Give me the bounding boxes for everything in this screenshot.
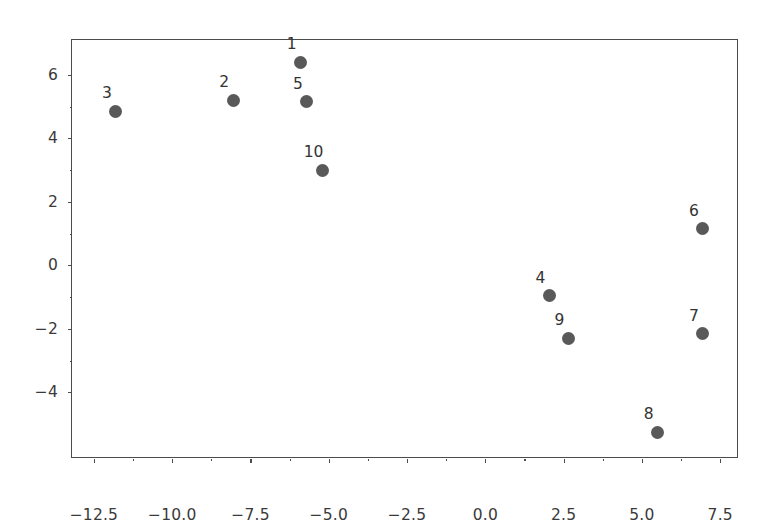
data-point-label: 8 — [644, 405, 654, 423]
y-tick-mark — [68, 329, 72, 330]
data-point-label: 4 — [536, 269, 546, 287]
y-tick-label: 0 — [48, 256, 58, 274]
x-tick-label: −7.5 — [231, 506, 269, 524]
x-tick-label: 5.0 — [629, 506, 654, 524]
x-tick-mark — [642, 459, 643, 463]
x-minor-tick-mark — [133, 459, 134, 461]
data-point[interactable] — [543, 289, 556, 302]
x-minor-tick-mark — [446, 459, 447, 461]
x-tick-mark — [172, 459, 173, 463]
data-point[interactable] — [696, 327, 709, 340]
data-point-label: 6 — [689, 202, 699, 220]
data-point[interactable] — [316, 164, 329, 177]
x-minor-tick-mark — [211, 459, 212, 461]
y-tick-mark — [68, 75, 72, 76]
y-tick-label: 6 — [48, 66, 58, 84]
data-point[interactable] — [294, 56, 307, 69]
x-minor-tick-mark — [368, 459, 369, 461]
y-tick-mark — [68, 202, 72, 203]
plot-axes-area: −12.5−10.0−7.5−5.0−2.50.02.55.07.5 6420−… — [71, 39, 738, 458]
x-tick-label: 7.5 — [708, 506, 733, 524]
y-minor-tick-mark — [70, 297, 72, 298]
data-point[interactable] — [696, 222, 709, 235]
data-point[interactable] — [651, 426, 664, 439]
data-point[interactable] — [562, 332, 575, 345]
y-tick-label: −2 — [35, 320, 58, 338]
y-tick-label: 4 — [48, 129, 58, 147]
x-minor-tick-mark — [524, 459, 525, 461]
x-tick-mark — [250, 459, 251, 463]
x-tick-mark — [485, 459, 486, 463]
data-point[interactable] — [300, 95, 313, 108]
y-minor-tick-mark — [70, 170, 72, 171]
x-tick-label: −10.0 — [148, 506, 197, 524]
x-tick-label: −12.5 — [70, 506, 119, 524]
x-minor-tick-mark — [603, 459, 604, 461]
x-tick-label: 2.5 — [551, 506, 576, 524]
y-tick-mark — [68, 265, 72, 266]
data-point[interactable] — [227, 94, 240, 107]
y-tick-label: −4 — [35, 383, 58, 401]
x-tick-mark — [94, 459, 95, 463]
data-point-label: 1 — [287, 35, 297, 53]
y-minor-tick-mark — [70, 361, 72, 362]
y-minor-tick-mark — [70, 107, 72, 108]
x-minor-tick-mark — [681, 459, 682, 461]
x-tick-label: 0.0 — [473, 506, 498, 524]
scatter-plot-figure: −12.5−10.0−7.5−5.0−2.50.02.55.07.5 6420−… — [0, 0, 766, 526]
data-point-label: 3 — [102, 84, 112, 102]
x-tick-label: −5.0 — [310, 506, 348, 524]
x-tick-mark — [720, 459, 721, 463]
x-tick-mark — [564, 459, 565, 463]
y-tick-mark — [68, 138, 72, 139]
data-point-label: 2 — [219, 73, 229, 91]
x-tick-label: −2.5 — [388, 506, 426, 524]
data-point-label: 9 — [554, 311, 564, 329]
x-tick-mark — [329, 459, 330, 463]
data-point-label: 7 — [689, 307, 699, 325]
data-point-label: 5 — [293, 75, 303, 93]
x-tick-mark — [407, 459, 408, 463]
y-tick-mark — [68, 392, 72, 393]
x-minor-tick-mark — [290, 459, 291, 461]
data-point[interactable] — [109, 105, 122, 118]
y-minor-tick-mark — [70, 234, 72, 235]
data-point-label: 10 — [304, 143, 324, 161]
y-tick-label: 2 — [48, 193, 58, 211]
